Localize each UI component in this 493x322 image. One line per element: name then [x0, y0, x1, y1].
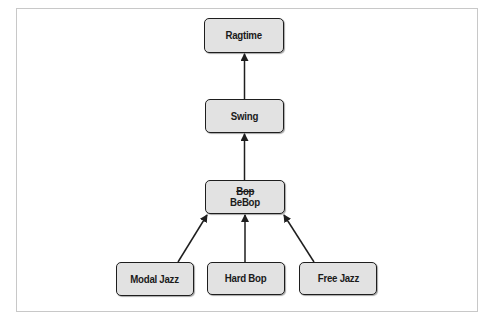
arrow-modaljazz-to-bebop	[178, 215, 207, 262]
arrow-freejazz-to-bebop	[284, 215, 314, 262]
node-hard-bop-label: Hard Bop	[225, 273, 266, 284]
node-bebop-label: BeBop	[230, 197, 260, 208]
node-free-jazz: Free Jazz	[299, 262, 377, 295]
node-bebop: Bop BeBop	[205, 180, 285, 214]
node-hard-bop: Hard Bop	[207, 262, 285, 295]
node-ragtime-label: Ragtime	[226, 30, 262, 41]
node-free-jazz-label: Free Jazz	[317, 273, 358, 284]
node-modal-jazz: Modal Jazz	[116, 262, 194, 296]
node-swing: Swing	[205, 99, 284, 133]
node-modal-jazz-label: Modal Jazz	[131, 274, 179, 285]
node-ragtime: Ragtime	[204, 18, 284, 53]
node-swing-label: Swing	[231, 111, 258, 122]
